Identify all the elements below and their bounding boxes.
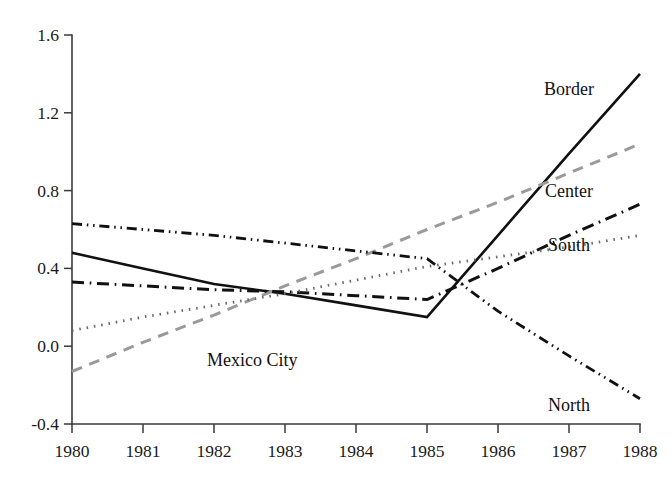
y-axis-tick-labels: 1.61.20.80.40.0-0.4 — [31, 25, 59, 434]
series-line-mexico-city — [72, 144, 640, 372]
y-tick-label: -0.4 — [31, 414, 59, 434]
x-axis-tick-marks — [72, 424, 640, 433]
series-label-center: Center — [545, 181, 593, 201]
x-axis: 198019811982198319841985198619871988 — [55, 424, 658, 461]
x-tick-label: 1980 — [55, 441, 90, 461]
y-tick-label: 1.6 — [37, 25, 59, 45]
x-tick-label: 1987 — [552, 441, 587, 461]
x-axis-tick-labels: 198019811982198319841985198619871988 — [55, 441, 658, 461]
x-tick-label: 1985 — [410, 441, 445, 461]
line-chart: 1.61.20.80.40.0-0.4 19801981198219831984… — [0, 0, 672, 483]
y-tick-label: 0.8 — [37, 181, 59, 201]
y-axis-tick-marks — [64, 35, 72, 424]
series-label-border: Border — [544, 79, 594, 99]
x-tick-label: 1983 — [268, 441, 303, 461]
series-label-north: North — [548, 395, 590, 415]
x-tick-label: 1981 — [126, 441, 161, 461]
y-tick-label: 0.0 — [37, 336, 59, 356]
y-tick-label: 1.2 — [37, 103, 59, 123]
y-tick-label: 0.4 — [37, 258, 59, 278]
series-label-group: BorderMexico CityCenterSouthNorth — [207, 79, 594, 414]
series-label-mexico-city: Mexico City — [207, 350, 298, 370]
x-tick-label: 1984 — [339, 441, 374, 461]
x-tick-label: 1988 — [623, 441, 658, 461]
series-label-south: South — [548, 235, 590, 255]
x-tick-label: 1986 — [481, 441, 516, 461]
x-tick-label: 1982 — [197, 441, 232, 461]
chart-svg: 1.61.20.80.40.0-0.4 19801981198219831984… — [0, 0, 672, 483]
y-axis: 1.61.20.80.40.0-0.4 — [31, 25, 72, 434]
